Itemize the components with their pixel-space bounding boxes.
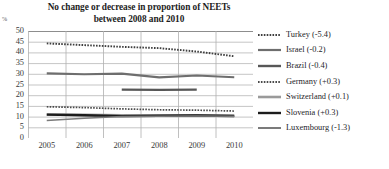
x-axis-tick-2006: 2006 [65,141,103,150]
y-axis-tick-30: 30 [0,70,24,78]
plot-area [28,31,253,138]
chart-container: No change or decrease in proportion of N… [0,0,389,169]
plot-svg [28,31,253,138]
legend-item-luxembourg[interactable]: Luxembourg (-1.3) [258,121,389,137]
legend-item-germany[interactable]: Germany (+0.3) [258,74,389,90]
legend-label-switzerland: Switzerland (+0.1) [286,92,349,102]
chart-title: No change or decrease in proportion of N… [26,2,252,25]
legend-item-brazil[interactable]: Brazil (-0.4) [258,58,389,74]
series-line-germany [47,107,235,111]
y-axis-tick-35: 35 [0,59,24,67]
legend-swatch-slovenia-icon [258,108,281,118]
y-axis-tick-10: 10 [0,113,24,121]
y-axis-unit-label: % [2,15,7,22]
y-axis-tick-50: 50 [0,27,24,35]
legend-label-slovenia: Slovenia (+0.3) [286,108,338,118]
chart-title-line-2: between 2008 and 2010 [26,14,252,26]
y-axis-tick-15: 15 [0,102,24,110]
legend-label-luxembourg: Luxembourg (-1.3) [286,123,350,133]
legend-swatch-israel-icon [258,45,281,55]
series-line-turkey [47,43,235,56]
legend-item-israel[interactable]: Israel (-0.2) [258,43,389,59]
legend-label-germany: Germany (+0.3) [286,77,340,87]
chart-title-line-1: No change or decrease in proportion of N… [26,2,252,14]
x-axis-tick-2009: 2009 [178,141,216,150]
series-line-luxembourg [47,116,235,120]
legend-item-turkey[interactable]: Turkey (-5.4) [258,27,389,43]
x-axis-tick-2010: 2010 [215,141,253,150]
legend-swatch-brazil-icon [258,61,281,71]
legend-swatch-luxembourg-icon [258,123,281,133]
y-axis-tick-40: 40 [0,48,24,56]
chart-legend: Turkey (-5.4)Israel (-0.2)Brazil (-0.4)G… [258,27,389,136]
x-axis-tick-2008: 2008 [140,141,178,150]
legend-item-switzerland[interactable]: Switzerland (+0.1) [258,89,389,105]
legend-label-israel: Israel (-0.2) [286,45,326,55]
y-axis-tick-20: 20 [0,91,24,99]
legend-item-slovenia[interactable]: Slovenia (+0.3) [258,105,389,121]
x-axis-tick-2007: 2007 [103,141,141,150]
x-axis-tick-2005: 2005 [28,141,66,150]
legend-label-turkey: Turkey (-5.4) [286,30,331,40]
y-axis-tick-0: 0 [0,134,24,142]
y-axis-tick-5: 5 [0,123,24,131]
legend-label-brazil: Brazil (-0.4) [286,61,327,71]
legend-swatch-switzerland-icon [258,92,281,102]
legend-swatch-turkey-icon [258,30,281,40]
y-axis-tick-25: 25 [0,81,24,89]
y-axis-tick-45: 45 [0,38,24,46]
legend-swatch-germany-icon [258,77,281,87]
